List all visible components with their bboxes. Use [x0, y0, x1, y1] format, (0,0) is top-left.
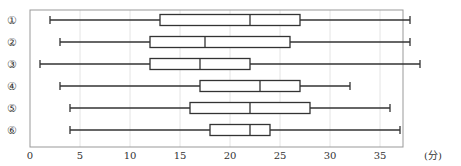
- x-tick-label: 30: [324, 150, 337, 161]
- x-tick-label: 20: [224, 150, 237, 161]
- x-axis-label: (分): [424, 150, 442, 161]
- iqr-box: [150, 37, 290, 48]
- iqr-box: [160, 15, 300, 26]
- row-label: ①: [7, 14, 17, 27]
- box-row: [50, 15, 410, 26]
- row-label: ④: [7, 80, 17, 93]
- x-axis-ticks: 05101520253035: [27, 150, 387, 161]
- box-row: [60, 37, 410, 48]
- row-label: ③: [7, 58, 17, 71]
- x-tick-label: 15: [174, 150, 187, 161]
- x-tick-label: 25: [274, 150, 287, 161]
- x-tick-label: 35: [374, 150, 387, 161]
- row-labels: ①②③④⑤⑥: [7, 14, 17, 137]
- iqr-box: [210, 125, 270, 136]
- iqr-box: [200, 81, 300, 92]
- x-tick-label: 5: [77, 150, 83, 161]
- box-row: [60, 81, 350, 92]
- row-label: ⑤: [7, 102, 17, 115]
- box-row: [70, 125, 400, 136]
- x-tick-label: 10: [124, 150, 137, 161]
- box-row: [70, 103, 390, 114]
- row-label: ⑥: [7, 124, 17, 137]
- x-tick-label: 0: [27, 150, 33, 161]
- row-label: ②: [7, 36, 17, 49]
- box-row: [40, 59, 420, 70]
- boxplot-chart: 05101520253035 ①②③④⑤⑥ (分): [0, 0, 461, 166]
